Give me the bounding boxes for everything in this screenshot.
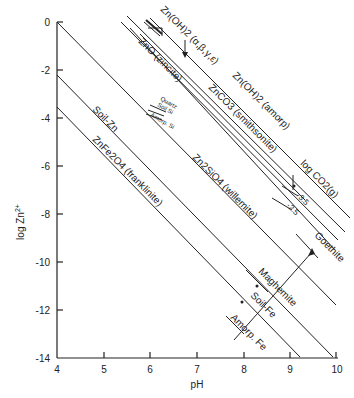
y-tick: 0 [44,17,50,28]
franklinite-label: ZnFe2O4 (franklinite) [91,134,166,209]
soil-zn-label: Soil-Zn [91,104,121,134]
amorp-fe-label: Amorp. Fe [229,312,270,353]
co2-25-label: -2.5 [285,201,302,218]
fe-point [241,301,244,304]
y-tick: -14 [36,353,51,364]
svg-text:log Zn2+: log Zn2+ [14,204,26,240]
y-tick: -12 [36,305,51,316]
y-tick: -6 [41,161,50,172]
willemite-label: Zn2SiO4 (willemite) [191,152,260,221]
x-tick: 4 [54,364,60,375]
x-axis-label: pH [191,379,204,390]
y-tick: -10 [36,257,51,268]
co2-35-label: -3.5 [295,191,312,208]
solubility-chart: 0 -2 -4 -6 -8 -10 -12 -14 4 5 6 7 8 9 10… [0,0,354,398]
axes [57,22,338,358]
x-tick: 10 [331,364,343,375]
x-tick: 6 [147,364,153,375]
log-co2-label: log CO2(g) [299,158,341,200]
y-tick-labels: 0 -2 -4 -6 -8 -10 -12 -14 [36,17,51,364]
znco3-label: ZnCO3 (smithsonite) [207,82,280,155]
co2-point [293,185,296,188]
x-tick: 9 [287,364,293,375]
fe-point [256,285,259,288]
zno-label: ZnO (zincite) [137,36,185,84]
y-tick: -8 [41,209,50,220]
arrow-head [308,248,315,256]
x-tick: 8 [241,364,247,375]
goethite-label: Goethite [313,230,348,265]
x-tick: 7 [194,364,200,375]
x-tick: 5 [101,364,107,375]
y-tick: -4 [41,113,50,124]
x-tick-labels: 4 5 6 7 8 9 10 [54,364,343,375]
y-axis-label: log Zn2+ [14,204,26,240]
y-tick: -2 [41,65,50,76]
